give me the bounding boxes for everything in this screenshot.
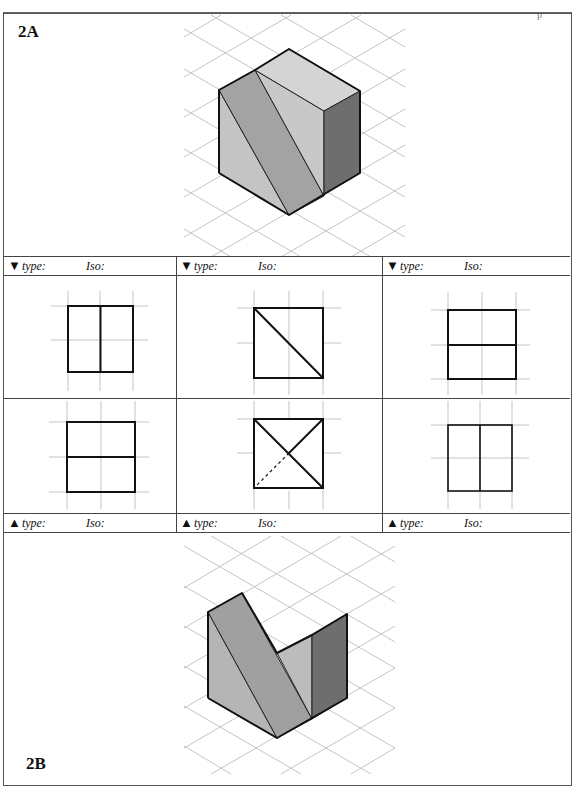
face-right-dark <box>312 614 347 719</box>
panel-label-2b: 2B <box>26 754 46 774</box>
isometric-figure-2b <box>1 1 575 791</box>
worksheet: 2A <box>3 13 572 786</box>
